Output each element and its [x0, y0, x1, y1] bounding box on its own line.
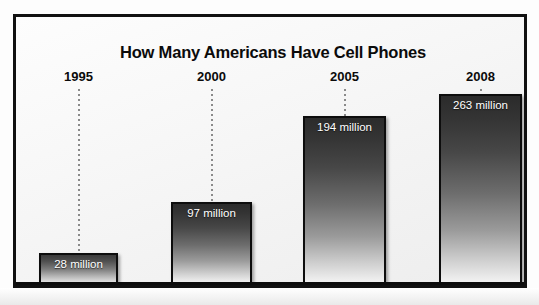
leader-line-1995	[78, 89, 80, 253]
bar-group-2008: 2008 263 million	[439, 17, 522, 285]
chart-frame: How Many Americans Have Cell Phones 1995…	[13, 14, 527, 288]
leader-line-2005	[344, 89, 346, 116]
bar-1995[interactable]: 28 million	[39, 253, 118, 285]
year-label-2000: 2000	[171, 69, 252, 84]
bar-group-2005: 2005 194 million	[303, 17, 386, 285]
bar-2000[interactable]: 97 million	[171, 202, 252, 285]
bar-group-1995: 1995 28 million	[39, 17, 118, 285]
baseline-axis	[16, 282, 524, 285]
year-label-2008: 2008	[439, 69, 522, 84]
year-label-1995: 1995	[39, 69, 118, 84]
bar-value-2000: 97 million	[173, 207, 250, 219]
bar-2005[interactable]: 194 million	[303, 116, 386, 285]
chart-figure: How Many Americans Have Cell Phones 1995…	[0, 0, 539, 305]
bar-value-2005: 194 million	[305, 121, 384, 133]
page-edge-shadow	[0, 288, 539, 305]
plot-area: 1995 28 million 2000 97 million 2005 1	[16, 17, 524, 285]
bar-value-2008: 263 million	[441, 99, 520, 111]
bar-2008[interactable]: 263 million	[439, 94, 522, 285]
leader-line-2000	[211, 89, 213, 202]
bar-value-1995: 28 million	[41, 258, 116, 270]
bar-group-2000: 2000 97 million	[171, 17, 252, 285]
year-label-2005: 2005	[303, 69, 386, 84]
